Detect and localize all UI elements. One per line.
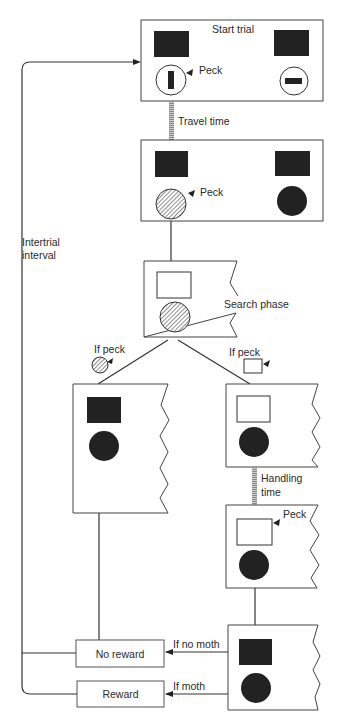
dark-round-key-icon (277, 186, 307, 216)
hatched-key-icon (156, 189, 186, 219)
handling-time-connector (252, 467, 257, 505)
handling-label-line1: Handling (261, 472, 302, 484)
intertrial-label-line2: interval (22, 249, 56, 261)
arrow-head-icon (133, 59, 141, 65)
search-phase-label: Search phase (224, 298, 289, 310)
left-branch-panel (73, 384, 169, 513)
choice-panel (141, 140, 323, 221)
hatched-stimulus-icon (92, 357, 108, 373)
travel-time-label: Travel time (178, 115, 230, 127)
reward-label: Reward (77, 688, 164, 700)
square-stimulus-icon (244, 359, 262, 373)
handling-label-line2: time (261, 486, 281, 498)
right-branch-panel (226, 384, 320, 467)
diagram-canvas (0, 0, 339, 728)
arrow-head-icon (165, 691, 173, 697)
peck-label: Peck (199, 64, 222, 76)
intertrial-loop-line (22, 62, 138, 694)
if-no-moth-label: If no moth (173, 638, 220, 650)
if-peck-right-label: If peck (229, 346, 260, 358)
intertrial-label-line1: Intertrial (22, 236, 60, 248)
outcome-panel (228, 625, 320, 710)
dark-key-left-icon (154, 31, 189, 57)
if-moth-label: If moth (173, 680, 205, 692)
travel-time-connector (169, 101, 174, 140)
if-peck-left-label: If peck (94, 343, 125, 355)
start-trial-label: Start trial (212, 23, 254, 35)
arrow-head-icon (165, 649, 173, 655)
no-reward-label: No reward (76, 648, 164, 660)
peck-label: Peck (283, 508, 306, 520)
dark-key-right-icon (274, 30, 309, 56)
peck-label: Peck (200, 186, 223, 198)
